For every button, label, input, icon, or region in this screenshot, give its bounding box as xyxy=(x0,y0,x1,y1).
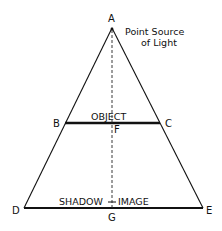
shadow-label: SHADOW xyxy=(59,196,103,207)
label-E: E xyxy=(206,205,212,216)
shadow-diagram: A B C D E F G Point Source of Light OBJE… xyxy=(0,0,222,231)
label-B: B xyxy=(53,118,60,129)
label-D: D xyxy=(12,205,20,216)
point-source-dot xyxy=(111,28,114,31)
source-label-line2: of Light xyxy=(141,37,177,48)
label-F: F xyxy=(114,124,120,135)
label-A: A xyxy=(108,13,115,24)
object-label: OBJECT xyxy=(91,111,126,122)
source-label-line1: Point Source xyxy=(125,26,184,37)
label-G: G xyxy=(108,212,116,223)
image-label: IMAGE xyxy=(118,196,149,207)
label-C: C xyxy=(165,118,172,129)
